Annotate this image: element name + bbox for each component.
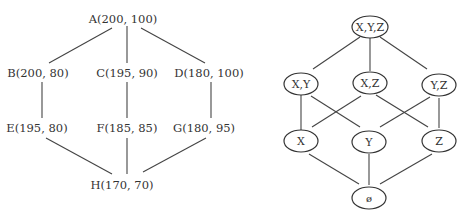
node-xz-label: X,Z [361,77,380,90]
edge-xyz-xy [313,37,360,69]
node-empty-set-label: ø [366,193,372,204]
node-f: F(185, 85) [97,121,158,135]
node-y-label: Y [364,136,373,149]
node-a: A(200, 100) [88,12,158,26]
left-lattice: A(200, 100) B(200, 80) C(195, 90) D(180,… [6,12,243,192]
lattice-diagrams: A(200, 100) B(200, 80) C(195, 90) D(180,… [0,0,471,223]
node-empty-set: ø [352,187,386,209]
edge-xyz-yz [380,37,427,69]
node-c: C(195, 90) [96,66,158,80]
node-b: B(200, 80) [7,66,68,80]
node-d: D(180, 100) [174,66,243,80]
node-z: Z [422,130,456,152]
node-xyz-label: X,Y,Z [356,21,385,34]
node-xyz: X,Y,Z [352,16,388,38]
node-x-label: X [297,135,305,148]
edge-g-h [143,138,206,172]
node-yz: Y,Z [422,74,456,96]
edge-a-b [49,28,112,63]
right-lattice: X,Y,Z X,Y X,Z Y,Z X Y Z ø [284,16,456,209]
node-x: X [284,130,318,152]
node-z-label: Z [435,135,443,148]
node-xy: X,Y [284,73,318,95]
edge-xz-z [376,95,428,127]
edge-e-h [46,138,112,174]
node-e: E(195, 80) [6,121,67,135]
edge-x-empty [309,154,359,184]
node-yz-label: Y,Z [430,79,448,92]
node-y: Y [352,131,386,153]
node-xy-label: X,Y [292,78,311,91]
node-xz: X,Z [353,72,387,94]
node-g: G(180, 95) [173,121,235,135]
node-h: H(170, 70) [91,178,154,192]
edge-a-d [141,28,205,63]
edge-z-empty [380,154,432,184]
